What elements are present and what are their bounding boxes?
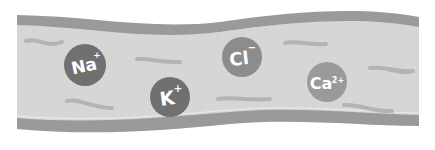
blood-vessel-diagram: Na + K + Cl − Ca 2+ — [0, 0, 435, 150]
ion-chloride: Cl − — [222, 37, 262, 77]
ion-chloride-charge: − — [248, 42, 256, 53]
ion-calcium: Ca 2+ — [307, 62, 347, 102]
ion-potassium-charge: + — [174, 83, 182, 94]
ion-sodium-charge: + — [93, 50, 101, 60]
ion-potassium: K + — [150, 77, 190, 117]
ion-calcium-charge: 2+ — [332, 76, 344, 85]
ion-sodium: Na + — [64, 44, 106, 86]
ion-chloride-symbol: Cl — [228, 47, 249, 70]
ion-calcium-symbol: Ca — [310, 74, 333, 93]
